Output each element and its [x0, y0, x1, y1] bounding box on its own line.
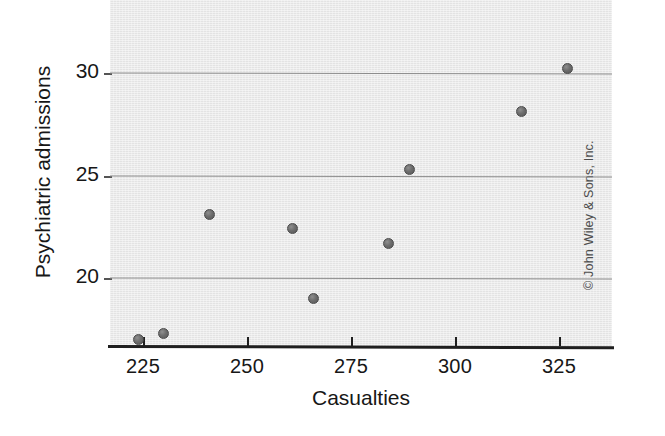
data-point — [516, 106, 527, 117]
x-axis-title: Casualties — [110, 386, 612, 410]
x-tick-label: 225 — [108, 355, 178, 378]
data-point — [308, 293, 319, 304]
y-axis-title: Psychiatric admissions — [31, 7, 55, 337]
x-tick-250 — [247, 337, 249, 346]
data-point — [158, 328, 169, 339]
x-tick-label: 300 — [420, 355, 490, 378]
scatter-plot-figure: 225250275300325 202530 Casualties Psychi… — [0, 0, 665, 436]
x-tick-275 — [351, 337, 353, 346]
x-tick-325 — [559, 337, 561, 346]
gridline-y-25 — [110, 175, 612, 177]
data-point — [287, 223, 298, 234]
data-point — [404, 164, 415, 175]
copyright-credit: © John Wiley & Sons, Inc. — [582, 120, 596, 290]
x-tick-label: 325 — [524, 355, 594, 378]
x-tick-label: 275 — [316, 355, 386, 378]
data-point — [383, 238, 394, 249]
x-tick-label: 250 — [212, 355, 282, 378]
gridline-y-30 — [110, 72, 612, 74]
data-point — [204, 209, 215, 220]
plot-panel — [110, 0, 612, 347]
x-tick-300 — [455, 337, 457, 346]
x-axis-line — [108, 345, 614, 349]
gridline-y-20 — [110, 278, 612, 280]
